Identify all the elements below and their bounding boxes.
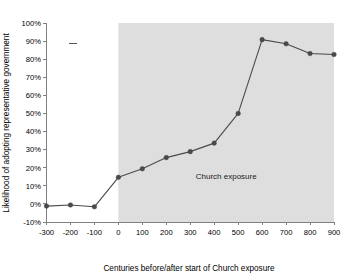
y-tick-label: 10% [26, 182, 41, 191]
data-point-marker [44, 204, 49, 209]
data-point-marker [140, 167, 145, 172]
y-tick-label: 50% [26, 109, 41, 118]
y-tick-label: 70% [26, 73, 41, 82]
y-tick-label: 100% [22, 19, 42, 28]
y-tick-label: 0% [30, 200, 41, 209]
data-point-marker [212, 141, 217, 146]
y-tick-label: 40% [26, 127, 41, 136]
y-tick-label: 20% [26, 164, 41, 173]
x-tick-label: -200 [63, 228, 78, 237]
data-point-marker [116, 175, 121, 180]
data-point-marker [68, 203, 73, 208]
y-tick-label: 30% [26, 145, 41, 154]
data-point-marker [92, 205, 97, 210]
x-tick-label: 0 [116, 228, 120, 237]
data-point-marker [188, 149, 193, 154]
x-tick-label: 700 [280, 228, 293, 237]
line-chart: -10%0%10%20%30%40%50%60%70%80%90%100% -3… [0, 0, 341, 279]
chart-container: -10%0%10%20%30%40%50%60%70%80%90%100% -3… [0, 0, 341, 279]
y-axis-title: Likelihood of adopting representative go… [2, 33, 11, 213]
y-tick-label: 80% [26, 55, 41, 64]
x-tick-label: 900 [328, 228, 341, 237]
y-tick-label: -10% [23, 218, 41, 227]
x-tick-label: 100 [136, 228, 149, 237]
x-tick-label: 500 [232, 228, 245, 237]
data-point-marker [260, 37, 265, 42]
data-point-marker [236, 111, 241, 116]
x-tick-label: -100 [87, 228, 102, 237]
data-point-marker [308, 51, 313, 56]
x-tick-label: 600 [256, 228, 269, 237]
data-point-marker [284, 42, 289, 47]
data-point-marker [164, 155, 169, 160]
church-exposure-shading [118, 23, 334, 222]
x-tick-label: 800 [304, 228, 317, 237]
x-tick-label: 200 [160, 228, 173, 237]
x-tick-label: -300 [39, 228, 54, 237]
church-exposure-label: Church exposure [196, 172, 257, 181]
data-point-marker [332, 52, 337, 57]
x-tick-label: 400 [208, 228, 221, 237]
y-tick-label: 60% [26, 91, 41, 100]
x-axis-title: Centuries before/after start of Church e… [103, 264, 275, 273]
y-tick-label: 90% [26, 37, 41, 46]
church-exposure-band-rect [118, 23, 334, 222]
x-tick-label: 300 [184, 228, 197, 237]
